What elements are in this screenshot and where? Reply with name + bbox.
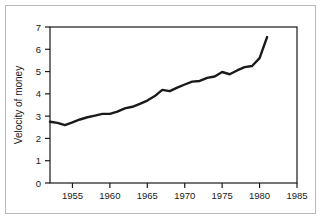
x-axis-ticks — [72, 183, 297, 188]
y-tick-label-4: 4 — [36, 88, 41, 99]
y-tick-label-6: 6 — [36, 44, 41, 55]
figure-root: 01234567 1955196019651970197519801985 Ve… — [0, 0, 321, 219]
x-tick-label-1960: 1960 — [99, 190, 120, 201]
x-tick-label-1965: 1965 — [137, 190, 158, 201]
y-axis-tick-labels: 01234567 — [36, 22, 41, 189]
y-tick-label-2: 2 — [36, 133, 41, 144]
y-axis-title: Velocity of money — [13, 66, 24, 144]
velocity-of-money-line-chart: 01234567 1955196019651970197519801985 Ve… — [0, 0, 321, 219]
y-axis-ticks — [45, 27, 50, 183]
x-tick-label-1955: 1955 — [62, 190, 83, 201]
x-tick-label-1975: 1975 — [212, 190, 233, 201]
y-tick-label-3: 3 — [36, 111, 41, 122]
x-tick-label-1970: 1970 — [174, 190, 195, 201]
y-tick-label-1: 1 — [36, 155, 41, 166]
plot-background — [50, 27, 297, 183]
x-tick-label-1980: 1980 — [249, 190, 270, 201]
y-tick-label-5: 5 — [36, 66, 41, 77]
plot-area — [50, 27, 297, 183]
y-tick-label-7: 7 — [36, 22, 41, 33]
x-tick-label-1985: 1985 — [286, 190, 307, 201]
x-axis-tick-labels: 1955196019651970197519801985 — [62, 190, 308, 201]
y-tick-label-0: 0 — [36, 178, 41, 189]
